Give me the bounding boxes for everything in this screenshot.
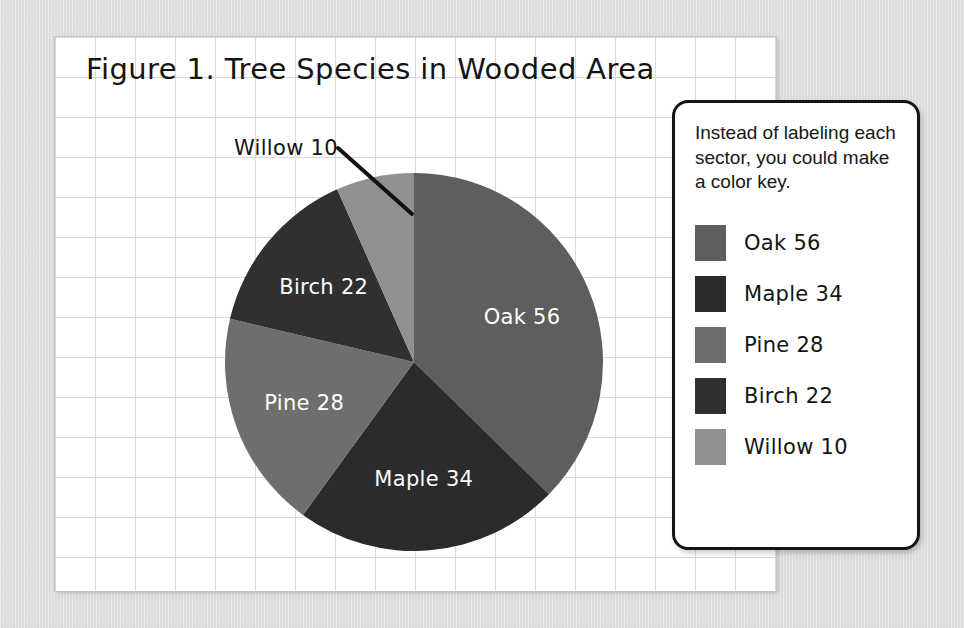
pie-slice-group xyxy=(225,173,603,551)
page-title: Figure 1. Tree Species in Wooded Area xyxy=(86,52,655,86)
legend-item-list: Oak 56Maple 34Pine 28Birch 22Willow 10 xyxy=(695,217,899,472)
legend-item-label: Willow 10 xyxy=(744,435,848,459)
pie-chart-svg: Oak 56Maple 34Pine 28Birch 22 xyxy=(224,172,604,552)
legend-swatch-pine xyxy=(695,327,726,363)
legend-note: Instead of labeling each sector, you cou… xyxy=(695,121,899,195)
legend-swatch-oak xyxy=(695,225,726,261)
legend-item-label: Birch 22 xyxy=(744,384,833,408)
pie-slice-label-pine: Pine 28 xyxy=(264,391,344,415)
legend-item: Willow 10 xyxy=(695,421,899,472)
legend-item: Birch 22 xyxy=(695,370,899,421)
legend-item-label: Pine 28 xyxy=(744,333,824,357)
pie-slice-label-maple: Maple 34 xyxy=(374,467,473,491)
legend-swatch-willow xyxy=(695,429,726,465)
legend-swatch-birch xyxy=(695,378,726,414)
legend-item: Pine 28 xyxy=(695,319,899,370)
legend-item: Maple 34 xyxy=(695,268,899,319)
pie-chart: Oak 56Maple 34Pine 28Birch 22 xyxy=(224,172,604,552)
legend-swatch-maple xyxy=(695,276,726,312)
legend-item-label: Maple 34 xyxy=(744,282,843,306)
legend-panel: Instead of labeling each sector, you cou… xyxy=(672,100,920,550)
legend-item-label: Oak 56 xyxy=(744,231,821,255)
legend-item: Oak 56 xyxy=(695,217,899,268)
pie-slice-label-oak: Oak 56 xyxy=(484,305,561,329)
willow-callout-label: Willow 10 xyxy=(234,136,338,160)
pie-slice-label-birch: Birch 22 xyxy=(279,275,368,299)
